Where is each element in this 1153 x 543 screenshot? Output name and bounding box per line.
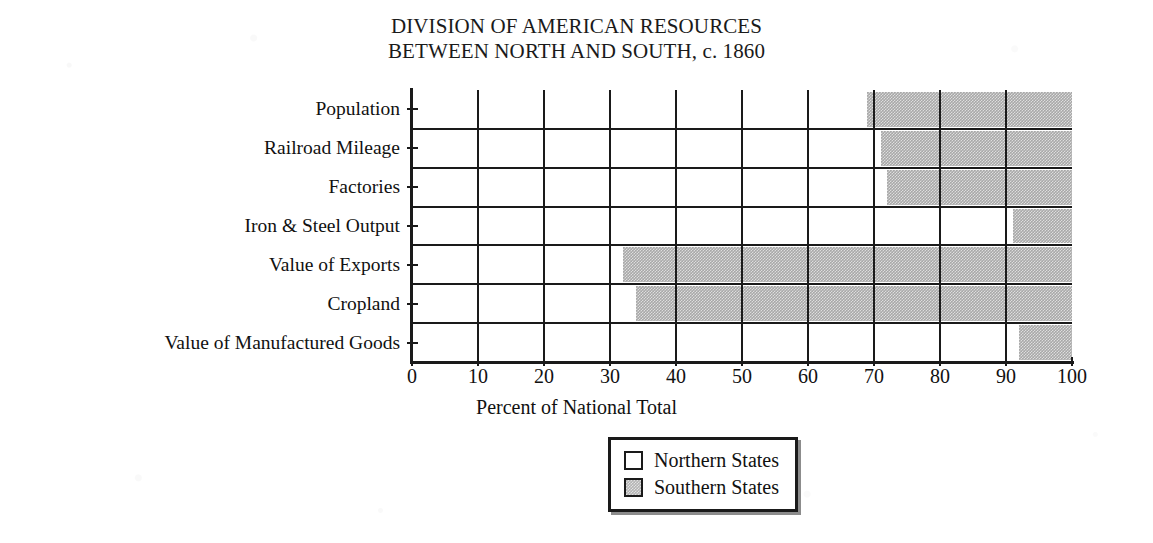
legend-item-northern-states[interactable]: Northern States (624, 447, 779, 474)
y-axis-label: Population (0, 98, 406, 120)
legend-swatch-south-icon (624, 478, 643, 497)
y-axis-tick (407, 342, 418, 344)
y-axis-label: Factories (0, 176, 406, 198)
bar-segment-south[interactable] (1013, 209, 1072, 244)
vertical-gridline (939, 90, 941, 362)
y-axis-tick (407, 225, 418, 227)
bar-segment-north[interactable] (412, 170, 887, 205)
x-axis-tick-label: 50 (732, 365, 752, 388)
y-axis-tick (407, 186, 418, 188)
x-axis-tick-label: 20 (534, 365, 554, 388)
bar-segment-north[interactable] (412, 131, 881, 166)
bar-segment-north[interactable] (412, 209, 1013, 244)
x-axis-tick-label: 0 (407, 365, 417, 388)
vertical-gridline (807, 90, 809, 362)
bar-segment-south[interactable] (887, 170, 1072, 205)
bar-segment-north[interactable] (412, 325, 1019, 360)
x-axis-tick-label: 100 (1057, 365, 1087, 388)
y-axis-tick (407, 303, 418, 305)
chart-legend: Northern States Southern States (608, 437, 798, 512)
y-axis-label: Iron & Steel Output (0, 215, 406, 237)
bar-segment-south[interactable] (867, 92, 1072, 127)
x-axis-tick-labels: 0102030405060708090100 (412, 365, 1072, 395)
chart-title-line-1: DIVISION OF AMERICAN RESOURCES (0, 14, 1153, 39)
y-axis-tick (407, 264, 418, 266)
x-axis-title: Percent of National Total (0, 396, 1153, 419)
x-axis-tick-label: 70 (864, 365, 884, 388)
y-axis-tick (407, 147, 418, 149)
x-axis-tick-label: 90 (996, 365, 1016, 388)
y-axis-label: Value of Exports (0, 254, 406, 276)
legend-label-south: Southern States (654, 476, 779, 499)
bar-segment-south[interactable] (881, 131, 1072, 166)
bar-segment-south[interactable] (1019, 325, 1072, 360)
y-axis-labels: PopulationRailroad MileageFactoriesIron … (0, 90, 406, 362)
x-axis-tick-label: 80 (930, 365, 950, 388)
x-axis-tick-label: 40 (666, 365, 686, 388)
y-axis-tick (407, 108, 418, 110)
x-axis-tick-label: 10 (468, 365, 488, 388)
plot-area (412, 90, 1072, 362)
y-axis-label: Cropland (0, 293, 406, 315)
vertical-gridline (1005, 90, 1007, 362)
chart-title: DIVISION OF AMERICAN RESOURCES BETWEEN N… (0, 14, 1153, 64)
y-axis-label: Value of Manufactured Goods (0, 332, 406, 354)
vertical-gridline (609, 90, 611, 362)
legend-swatch-north-icon (624, 451, 643, 470)
bar-segment-north[interactable] (412, 286, 636, 321)
bar-segment-north[interactable] (412, 247, 623, 282)
vertical-gridline (543, 90, 545, 362)
bar-segment-north[interactable] (412, 92, 867, 127)
x-axis-tick-label: 30 (600, 365, 620, 388)
vertical-gridline (477, 90, 479, 362)
y-axis-label: Railroad Mileage (0, 137, 406, 159)
legend-label-north: Northern States (654, 449, 779, 472)
vertical-gridline (873, 90, 875, 362)
chart-title-line-2: BETWEEN NORTH AND SOUTH, c. 1860 (0, 39, 1153, 64)
vertical-gridline (675, 90, 677, 362)
vertical-gridline (741, 90, 743, 362)
x-axis-tick-label: 60 (798, 365, 818, 388)
legend-item-southern-states[interactable]: Southern States (624, 474, 779, 501)
